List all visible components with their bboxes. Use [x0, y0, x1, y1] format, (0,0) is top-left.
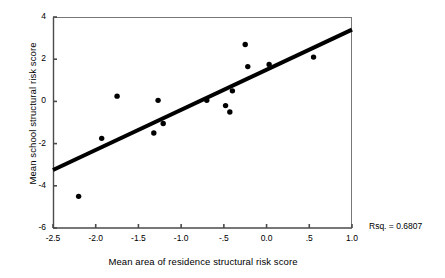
regression-line [53, 30, 352, 170]
scatter-plot-figure: Mean school structural risk score Mean a… [0, 0, 445, 278]
data-point [243, 42, 248, 47]
x-tick-label: 1.0 [332, 233, 372, 243]
y-tick-label: -4 [16, 180, 46, 190]
data-point [230, 88, 235, 93]
data-point [161, 121, 166, 126]
x-tick-label: -1.5 [118, 233, 158, 243]
data-point [227, 109, 232, 114]
r-squared-annotation: Rsq. = 0.6807 [369, 221, 422, 231]
data-point [76, 194, 81, 199]
y-tick-label: 4 [16, 11, 46, 21]
y-tick-label: -2 [16, 138, 46, 148]
x-tick-label: -1.0 [161, 233, 201, 243]
x-axis-label: Mean area of residence structural risk s… [53, 256, 353, 267]
data-point [151, 130, 156, 135]
x-tick-label: .5 [289, 233, 329, 243]
data-point [114, 93, 119, 98]
data-point [204, 98, 209, 103]
data-point [245, 64, 250, 69]
data-point [155, 98, 160, 103]
x-tick-label: -2.0 [76, 233, 116, 243]
data-point [266, 62, 271, 67]
data-point [311, 54, 316, 59]
y-tick-label: 0 [16, 95, 46, 105]
data-point [223, 103, 228, 108]
y-tick-label: -6 [16, 222, 46, 232]
y-tick-label: 2 [16, 53, 46, 63]
data-point [99, 136, 104, 141]
x-tick-label: -.5 [204, 233, 244, 243]
x-tick-label: 0.0 [247, 233, 287, 243]
x-tick-label: -2.5 [33, 233, 73, 243]
